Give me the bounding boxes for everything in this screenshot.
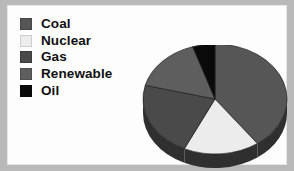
legend-item-renewable: Renewable xyxy=(20,66,138,83)
legend-swatch-coal xyxy=(20,18,32,30)
chart-figure: Coal Nuclear Gas Renewable Oil xyxy=(0,0,294,171)
pie-chart-svg xyxy=(137,45,294,170)
legend-label-oil: Oil xyxy=(41,84,59,98)
legend-label-gas: Gas xyxy=(41,50,67,64)
legend-label-renewable: Renewable xyxy=(41,67,112,81)
legend-label-coal: Coal xyxy=(41,17,71,31)
legend-swatch-gas xyxy=(20,51,32,63)
legend-swatch-renewable xyxy=(20,68,32,80)
legend-item-gas: Gas xyxy=(20,49,138,66)
chart-plate: Coal Nuclear Gas Renewable Oil xyxy=(7,5,287,165)
chart-legend: Coal Nuclear Gas Renewable Oil xyxy=(20,16,138,99)
legend-item-oil: Oil xyxy=(20,82,138,99)
pie-chart xyxy=(137,45,294,170)
legend-item-nuclear: Nuclear xyxy=(20,33,138,50)
legend-label-nuclear: Nuclear xyxy=(41,34,91,48)
legend-item-coal: Coal xyxy=(20,16,138,33)
legend-swatch-nuclear xyxy=(20,35,32,47)
pie-top-slices xyxy=(143,45,287,154)
legend-swatch-oil xyxy=(20,85,32,97)
